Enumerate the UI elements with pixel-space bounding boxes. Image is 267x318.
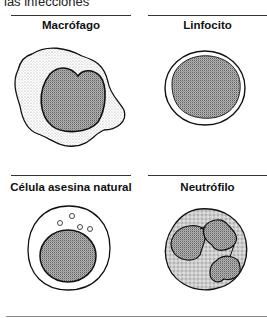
- label-neutrophil: Neutrófilo: [148, 181, 267, 193]
- divider: [11, 175, 131, 176]
- caption-text: las infecciones: [4, 0, 89, 9]
- lymphocyte-illustration: [162, 48, 248, 128]
- label-macrophage: Macrófago: [11, 19, 131, 31]
- neutrophil-illustration: [160, 205, 250, 293]
- label-natural-killer-cell: Célula asesina natural: [8, 181, 134, 193]
- divider: [11, 15, 131, 16]
- divider: [6, 316, 267, 317]
- divider: [148, 15, 267, 16]
- divider: [148, 175, 267, 176]
- natural-killer-cell-illustration: [24, 202, 114, 294]
- macrophage-illustration: [12, 42, 128, 152]
- label-lymphocyte: Linfocito: [148, 19, 267, 31]
